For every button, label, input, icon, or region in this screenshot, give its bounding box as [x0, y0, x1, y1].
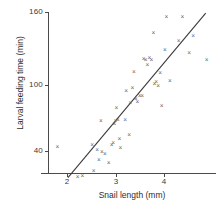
data-point: × — [130, 68, 137, 75]
data-point: × — [148, 56, 155, 63]
data-point: × — [158, 102, 165, 109]
data-point: × — [117, 144, 124, 151]
data-point: × — [203, 56, 210, 63]
y-axis-title: Larval feeding time (min) — [15, 8, 25, 158]
data-point: × — [105, 159, 112, 166]
y-tick-160 — [45, 12, 49, 13]
data-point: × — [97, 117, 104, 124]
data-point: × — [90, 167, 97, 174]
data-point: × — [79, 172, 86, 179]
x-tick-label-3: 3 — [108, 177, 124, 186]
data-point: × — [186, 49, 193, 56]
x-tick-label-2: 2 — [59, 177, 75, 186]
data-point: × — [150, 29, 157, 36]
data-point: × — [101, 150, 108, 157]
y-tick-40 — [45, 151, 49, 152]
data-point: × — [116, 135, 123, 142]
data-point: × — [179, 13, 186, 20]
data-point: × — [157, 69, 164, 76]
data-point: × — [175, 37, 182, 44]
data-point: × — [54, 143, 61, 150]
data-point: × — [139, 92, 146, 99]
data-point: × — [190, 32, 197, 39]
data-point: × — [114, 116, 121, 123]
data-point: × — [155, 82, 162, 89]
data-point: × — [163, 13, 170, 20]
data-point: × — [161, 46, 168, 53]
data-point: × — [129, 84, 136, 91]
data-point: × — [113, 104, 120, 111]
scatter-plot-figure: 160 100 40 2 3 4 ×××××××××××××××××××××××… — [0, 0, 216, 207]
x-tick-label-4: 4 — [156, 177, 172, 186]
plot-area: 160 100 40 2 3 4 ×××××××××××××××××××××××… — [0, 0, 216, 207]
data-point: × — [126, 131, 133, 138]
y-axis-line — [48, 12, 49, 173]
y-tick-100 — [45, 85, 49, 86]
data-point: × — [122, 116, 129, 123]
data-point: × — [166, 77, 173, 84]
x-axis-title: Snail length (mm) — [48, 190, 216, 200]
regression-line — [0, 0, 216, 207]
